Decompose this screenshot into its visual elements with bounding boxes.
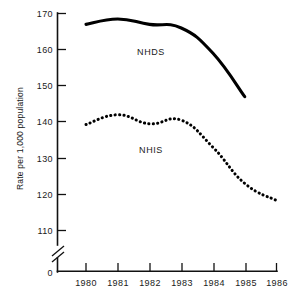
x-tick-label-1982: 1982 [139,278,161,288]
y-axis-group: 170 160 150 140 130 120 110 0 Rate per 1… [15,9,66,278]
series-line-nhis [86,115,277,201]
series-plot-area [86,19,277,201]
y-tick-label-150: 150 [37,81,53,91]
x-tick-label-1983: 1983 [171,278,193,288]
chart-container: 170 160 150 140 130 120 110 0 Rate per 1… [0,0,296,295]
series-annotation-nhis: NHIS [139,145,163,155]
y-tick-label-130: 130 [37,154,53,164]
line-chart: 170 160 150 140 130 120 110 0 Rate per 1… [0,0,296,295]
x-tick-label-1986: 1986 [266,278,288,288]
x-tick-label-1984: 1984 [203,278,225,288]
x-tick-label-1985: 1985 [235,278,257,288]
y-tick-label-160: 160 [37,45,53,55]
y-tick-label-120: 120 [37,190,53,200]
x-tick-label-1980: 1980 [75,278,97,288]
y-tick-label-0: 0 [48,268,53,278]
y-axis-title: Rate per 1,000 population [15,87,25,190]
x-axis-group: 1980 1981 1982 1983 1984 1985 1986 [58,263,288,288]
y-tick-label-140: 140 [37,117,53,127]
x-tick-label-1981: 1981 [107,278,129,288]
y-tick-label-170: 170 [37,9,53,19]
series-line-nhds [86,19,245,97]
series-annotation-nhds: NHDS [137,47,165,57]
y-tick-label-110: 110 [37,226,53,236]
